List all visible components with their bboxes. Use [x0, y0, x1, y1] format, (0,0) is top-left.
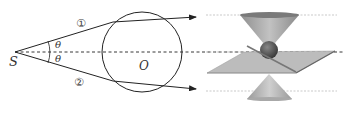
label-s: S — [9, 54, 18, 69]
top-cone-rim — [240, 12, 299, 18]
label-theta-upper: θ — [55, 39, 61, 50]
right-figure — [206, 12, 337, 101]
bottom-cone-rim — [247, 97, 292, 101]
label-o: O — [139, 59, 149, 73]
sphere — [260, 41, 278, 59]
label-ray-2: ② — [74, 76, 84, 89]
label-theta-lower: θ — [55, 53, 61, 64]
ray-2 — [15, 52, 196, 89]
label-ray-1: ① — [76, 17, 86, 30]
bottom-cone — [247, 74, 292, 99]
diagram-canvas: S O θ θ ① ② — [0, 0, 348, 115]
